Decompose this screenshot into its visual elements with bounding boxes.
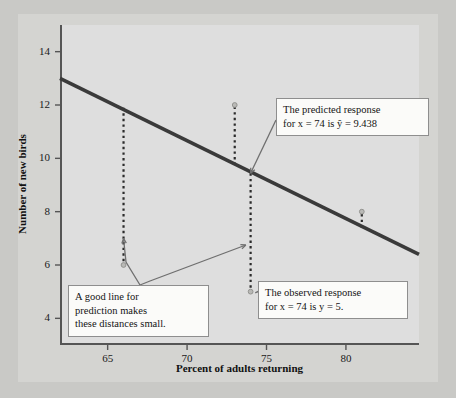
y-tick-label: 12 <box>30 98 50 110</box>
annotation-line: these distances small. <box>75 317 202 331</box>
annotation-good-line: A good line for prediction makes these d… <box>68 285 209 337</box>
leader-line-good-left <box>124 238 141 285</box>
chart-figure: 65 70 75 80 4 6 8 10 12 14 Percent of ad… <box>0 0 456 398</box>
x-axis-title: Percent of adults returning <box>60 362 419 374</box>
y-tick-label: 14 <box>30 45 50 57</box>
data-point <box>121 263 126 268</box>
annotation-line: for x = 74 is y = 5. <box>265 300 401 314</box>
data-point <box>359 209 364 214</box>
annotation-line: A good line for <box>75 290 202 304</box>
annotation-line: prediction makes <box>75 304 202 318</box>
chart-canvas <box>0 0 456 398</box>
y-tick-label: 4 <box>30 311 50 323</box>
data-point <box>248 289 253 294</box>
leader-line-predicted <box>251 120 276 173</box>
annotation-predicted-response: The predicted response for x = 74 is ŷ =… <box>276 98 429 136</box>
annotation-observed-response: The observed response for x = 74 is y = … <box>258 281 408 319</box>
annotation-line: The predicted response <box>283 103 422 117</box>
y-axis-title: Number of new birds <box>16 114 28 254</box>
y-tick-label: 8 <box>30 205 50 217</box>
leader-line-good-right <box>140 245 246 285</box>
annotation-line: The observed response <box>265 286 401 300</box>
y-tick-label: 10 <box>30 151 50 163</box>
y-tick-label: 6 <box>30 258 50 270</box>
annotation-line: for x = 74 is ŷ = 9.438 <box>283 117 422 131</box>
data-point <box>232 103 237 108</box>
